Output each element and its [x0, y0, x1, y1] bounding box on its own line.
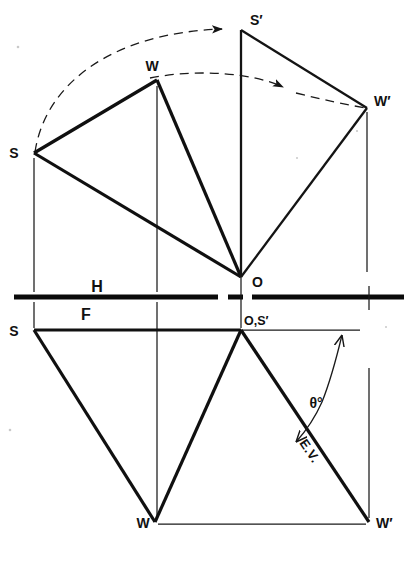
edge-view-line: [241, 330, 369, 522]
scan-speckles: [9, 46, 387, 432]
technical-drawing-figure: S W O S′ W′ H F S O,S′ W W′ θ° E.V.: [0, 0, 418, 568]
label-front-view-w: W: [136, 515, 150, 531]
arc-w-to-w-prime: [150, 73, 283, 87]
label-front-view-w-prime: W′: [376, 515, 393, 531]
front-edge-w-to-os: [155, 330, 241, 522]
top-view-triangle-swo: [34, 80, 241, 277]
label-front-view-o-s-prime: O,S′: [244, 314, 269, 328]
edge-w-o: [157, 80, 241, 277]
edge-s-o: [34, 153, 241, 277]
top-view-projectors: [34, 86, 367, 292]
arc-s-to-s-prime: [35, 29, 222, 152]
label-angle-theta: θ°: [309, 395, 322, 411]
drawing-canvas: S W O S′ W′ H F S O,S′ W W′ θ° E.V.: [0, 0, 418, 568]
label-plane-frontal: F: [81, 306, 91, 323]
edge-s-w: [34, 80, 157, 153]
top-view-revolved-triangle: [241, 30, 367, 277]
label-top-view-s-prime: S′: [250, 12, 263, 28]
front-edge-s-to-w: [34, 330, 155, 522]
front-view-triangle: [34, 330, 241, 522]
label-top-view-w: W: [145, 58, 159, 74]
label-edge-view: E.V.: [297, 436, 323, 465]
edge-w-prime-o: [241, 108, 367, 277]
label-top-view-s: S: [9, 145, 18, 161]
label-plane-horizontal: H: [91, 278, 103, 295]
edge-s-prime-w-prime: [241, 30, 367, 108]
label-front-view-s: S: [9, 323, 18, 339]
angle-leader-curve: [296, 335, 342, 442]
label-top-view-o: O: [252, 274, 263, 290]
label-top-view-w-prime: W′: [374, 93, 391, 109]
revolution-arcs: [35, 29, 366, 152]
front-view-projectors: [34, 264, 369, 518]
